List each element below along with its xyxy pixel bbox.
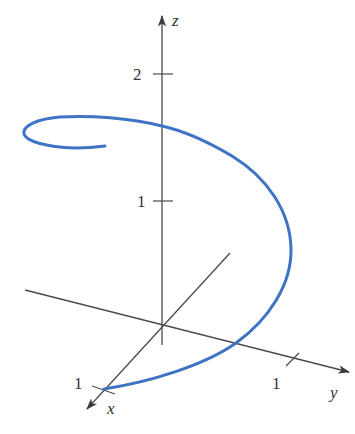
y-tick-label-1: 1 [272, 374, 281, 393]
z-axis-label: z [171, 11, 179, 30]
y-axis [25, 290, 349, 372]
helix-diagram: z 2 1 1 x 1 y [0, 0, 355, 434]
z-axis [153, 16, 173, 345]
x-axis-label: x [106, 399, 115, 418]
helix-curve [24, 116, 291, 389]
x-axis [87, 253, 230, 409]
y-axis-label: y [328, 383, 338, 402]
diagram-canvas: z 2 1 1 x 1 y [0, 0, 355, 434]
x-tick-label-1: 1 [74, 374, 83, 393]
z-tick-label-1: 1 [137, 192, 146, 211]
z-tick-label-2: 2 [133, 65, 142, 84]
